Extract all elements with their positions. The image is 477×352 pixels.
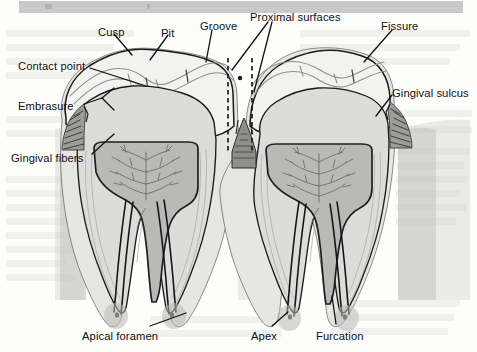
leader-fissure xyxy=(364,30,392,62)
label-gingival-sulcus: Gingival sulcus xyxy=(392,87,469,99)
figure-canvas: Cusp Pit Groove Proximal surfaces Fissur… xyxy=(0,0,477,352)
right-root-apices xyxy=(277,305,359,331)
label-apex: Apex xyxy=(251,330,277,342)
left-root-apices xyxy=(104,303,186,329)
right-molar xyxy=(220,48,395,331)
label-embrasure: Embrasure xyxy=(18,100,74,112)
label-groove: Groove xyxy=(200,20,237,32)
leader-proximal-a xyxy=(232,22,268,70)
left-molar xyxy=(61,48,238,329)
label-contact-point: Contact point xyxy=(18,60,85,72)
label-proximal-surfaces: Proximal surfaces xyxy=(250,11,341,23)
contact-point-marker xyxy=(238,76,242,80)
label-gingival-fibers: Gingival fibers xyxy=(11,152,83,164)
tooth-cross-section-illustration xyxy=(0,0,477,352)
label-fissure: Fissure xyxy=(381,20,418,32)
label-pit: Pit xyxy=(161,27,174,39)
label-furcation: Furcation xyxy=(316,330,364,342)
label-apical-foramen: Apical foramen xyxy=(82,330,158,342)
leader-groove xyxy=(206,30,212,62)
label-cusp: Cusp xyxy=(98,26,125,38)
